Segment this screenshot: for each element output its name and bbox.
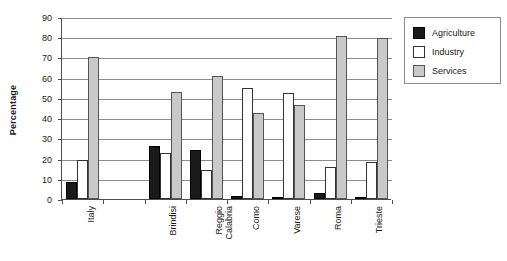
x-tick [186,200,187,204]
legend-item-agriculture[interactable]: Agriculture [413,24,500,42]
x-tick [227,200,228,204]
bar-group [310,17,351,199]
x-axis-label: ReggioCalabria [214,206,234,240]
x-tick [62,200,63,204]
bar-industry[interactable] [201,170,212,199]
bar-agriculture[interactable] [231,196,242,199]
x-axis-label: Italy [86,206,96,223]
bar-group [351,17,392,199]
bar-group [268,17,309,199]
x-tick [392,200,393,204]
bar-services[interactable] [294,105,305,199]
y-axis-title: Percentage [6,55,20,165]
y-tick-label: 0 [47,195,52,205]
bar-industry[interactable] [325,167,336,199]
bar-industry[interactable] [283,93,294,199]
x-axis-label: Roma [333,206,343,230]
bar-group [103,17,144,199]
bar-industry[interactable] [366,162,377,199]
y-tick-label: 80 [42,33,52,43]
legend-swatch-industry [413,46,425,58]
bar-group [62,17,103,199]
x-axis-label: Como [251,206,261,230]
y-tick-label: 60 [42,74,52,84]
legend-label: Industry [432,47,464,57]
chart-legend: AgricultureIndustryServices [404,17,501,84]
x-axis-label: Trieste [374,206,384,233]
x-axis-label-line: Reggio [214,206,224,235]
x-axis-label: Varese [292,206,302,234]
bar-industry[interactable] [77,160,88,199]
legend-swatch-agriculture [413,27,425,39]
bar-group [145,17,186,199]
bar-services[interactable] [88,57,99,199]
bar-agriculture[interactable] [272,197,283,199]
plot-area: 0102030405060708090 [61,18,391,200]
bar-chart-figure: Percentage 0102030405060708090 ItalyBrin… [0,0,507,261]
legend-item-services[interactable]: Services [413,62,500,80]
bar-group [186,17,227,199]
x-tick [103,200,104,204]
bar-agriculture[interactable] [190,150,201,199]
y-tick-label: 30 [42,134,52,144]
x-tick [310,200,311,204]
bar-services[interactable] [171,92,182,199]
bar-services[interactable] [253,113,264,199]
bar-services[interactable] [377,38,388,199]
legend-item-industry[interactable]: Industry [413,43,500,61]
bar-agriculture[interactable] [314,193,325,199]
y-tick-label: 20 [42,155,52,165]
x-tick [145,200,146,204]
x-tick [351,200,352,204]
legend-label: Services [432,66,467,76]
bar-agriculture[interactable] [149,146,160,199]
bar-industry[interactable] [242,88,253,199]
bar-agriculture[interactable] [355,197,366,199]
legend-swatch-services [413,65,425,77]
y-tick-label: 10 [42,175,52,185]
y-tick-label: 50 [42,94,52,104]
legend-label: Agriculture [432,28,475,38]
y-tick-label: 70 [42,53,52,63]
x-tick [268,200,269,204]
bar-agriculture[interactable] [66,182,77,199]
bar-industry[interactable] [160,153,171,200]
x-axis-label: Brindisi [168,206,178,236]
x-axis-label-line: Calabria [224,206,234,240]
bar-services[interactable] [212,76,223,199]
y-tick-label: 90 [42,13,52,23]
bar-services[interactable] [336,36,347,199]
bar-group [227,17,268,199]
y-tick-label: 40 [42,114,52,124]
